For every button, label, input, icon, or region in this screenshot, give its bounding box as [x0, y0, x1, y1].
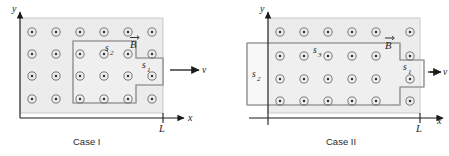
loop-label-s3-subscript: 3: [317, 51, 322, 59]
loop-label-s3-base: s: [313, 45, 317, 55]
x-axis-label: x: [436, 115, 442, 126]
loop-label-s2-base: s: [252, 69, 256, 79]
case-caption: Case I: [73, 136, 100, 147]
loop-label-s2-subscript: 2: [257, 75, 261, 83]
field-label: B: [385, 40, 392, 51]
tick-label-L: L: [158, 123, 165, 134]
physics-figure-two-cases: B x y L v s 2 s 1 Case I: [0, 0, 449, 156]
loop-label-s2-subscript: 2: [110, 49, 114, 57]
case-caption: Case II: [326, 136, 356, 147]
loop-label-s1-base: s: [142, 60, 146, 70]
conducting-loop: [247, 43, 424, 105]
loop-label-s1-subscript: 1: [408, 68, 412, 76]
loop-label-s1-subscript: 1: [147, 66, 151, 74]
tick-label-L: L: [415, 123, 422, 134]
y-axis-label: y: [259, 3, 265, 14]
loop-label-s2-base: s: [105, 43, 109, 53]
y-axis-label: y: [11, 3, 17, 14]
x-axis-label: x: [187, 112, 193, 123]
field-label: B: [130, 39, 137, 50]
loop-label-s1-base: s: [403, 62, 407, 72]
